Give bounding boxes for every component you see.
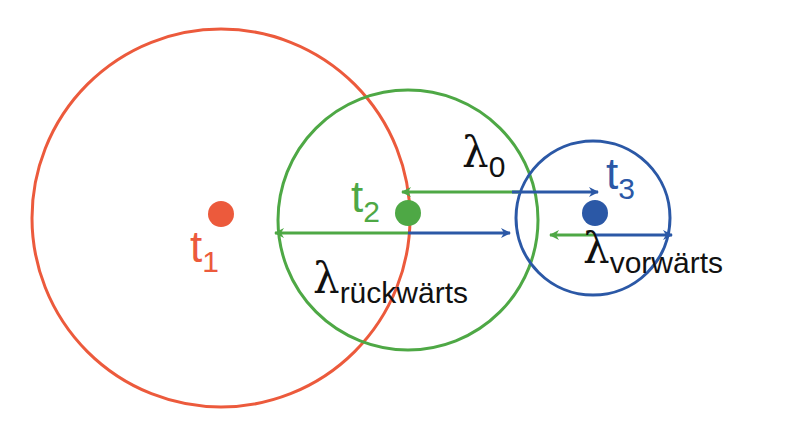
circles-and-arrows <box>0 0 801 428</box>
lambda-forward-subscript: vorwärts <box>610 246 723 279</box>
t3-point <box>582 200 608 226</box>
t1-point <box>208 201 234 227</box>
lambda-symbol: λ <box>462 128 489 177</box>
t1-label: t1 <box>190 225 219 269</box>
lambda-backward-subscript: rückwärts <box>340 276 468 309</box>
lambda-symbol: λ <box>313 254 340 303</box>
t1-label-sub: 1 <box>202 245 219 278</box>
diagram-canvas: t1 t2 t3 λ0 λrückwärts λvorwärts <box>0 0 801 428</box>
lambda-forward-label: λvorwärts <box>583 228 723 270</box>
lambda-backward-label: λrückwärts <box>313 258 468 300</box>
t2-point <box>395 200 421 226</box>
t3-label-sub: 3 <box>618 172 635 205</box>
t2-label-sub: 2 <box>363 195 380 228</box>
t2-label-main: t <box>351 172 363 221</box>
t3-label: t3 <box>606 152 635 196</box>
t3-label-main: t <box>606 149 618 198</box>
t2-label: t2 <box>351 175 380 219</box>
t1-label-main: t <box>190 222 202 271</box>
lambda0-subscript: 0 <box>489 150 506 183</box>
lambda0-label: λ0 <box>462 132 505 174</box>
lambda-symbol: λ <box>583 224 610 273</box>
